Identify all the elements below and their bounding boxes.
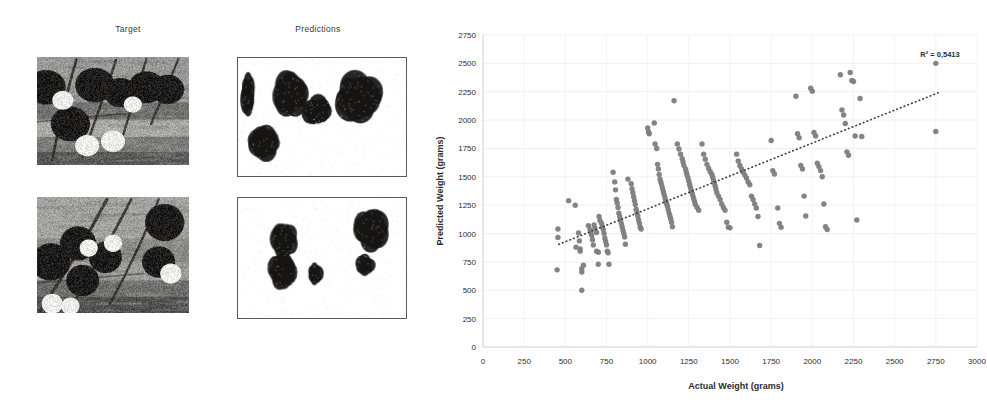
prediction-mask-row-2 [237,197,407,319]
x-tick-label: 1500 [721,357,739,366]
data-point [606,261,611,266]
x-tick-label: 2250 [845,357,863,366]
data-point [652,120,657,125]
data-point [696,208,701,213]
data-point [757,243,762,248]
data-point [838,72,843,77]
data-point [579,269,584,274]
data-point [801,193,806,198]
data-point [818,168,823,173]
x-tick-label: 1250 [680,357,698,366]
r-squared-annotation: R² = 0,5413 [920,50,959,59]
scatter-plot-svg: 0250500750100012501500175020002250250027… [425,0,987,404]
data-point [573,202,578,207]
data-point [755,214,760,219]
scatter-chart-panel: 0250500750100012501500175020002250250027… [425,0,987,404]
data-point [821,201,826,206]
data-point [656,166,661,171]
data-point [699,141,704,146]
column-header-target: Target [78,24,178,34]
data-point [701,151,706,156]
data-point [604,242,609,247]
y-tick-label: 1500 [458,173,476,182]
data-point [676,146,681,151]
data-point [613,187,618,192]
data-point [612,179,617,184]
data-point [933,129,938,134]
prediction-mask-row-1 [237,57,407,177]
data-point [854,217,859,222]
data-point [734,151,739,156]
data-point [824,227,829,232]
data-point [633,202,638,207]
y-tick-label: 1250 [458,201,476,210]
data-point [820,174,825,179]
data-point [810,88,815,93]
data-point [669,220,674,225]
data-point [594,230,599,235]
data-point [623,242,628,247]
y-tick-label: 1750 [458,144,476,153]
y-tick-label: 2750 [458,31,476,40]
data-point [722,208,727,213]
data-point [590,237,595,242]
x-tick-label: 0 [481,357,486,366]
data-point [577,248,582,253]
data-point [813,133,818,138]
data-point [655,162,660,167]
data-point [768,138,773,143]
x-tick-label: 2500 [886,357,904,366]
data-point [754,205,759,210]
data-point [629,181,634,186]
data-point [596,250,601,255]
x-axis-title: Actual Weight (grams) [688,381,783,391]
data-point [647,131,652,136]
data-point [670,224,675,229]
y-axis-title: Predicted Weight (grams) [435,137,445,246]
data-point [555,226,560,231]
data-point [848,70,853,75]
data-point [591,242,596,247]
y-tick-label: 500 [463,286,477,295]
data-point [841,112,846,117]
y-tick-label: 2000 [458,116,476,125]
x-tick-label: 1000 [639,357,657,366]
data-point [747,182,752,187]
y-tick-label: 750 [463,258,477,267]
data-point [793,94,798,99]
x-tick-label: 1750 [762,357,780,366]
data-point [727,225,732,230]
data-point [724,220,729,225]
data-point [566,198,571,203]
y-tick-label: 2500 [458,59,476,68]
data-point [577,238,582,243]
data-point [772,171,777,176]
data-point [576,230,581,235]
data-point [800,166,805,171]
data-point [852,133,857,138]
data-point [851,79,856,84]
trendline [559,92,941,245]
y-tick-label: 250 [463,315,477,324]
data-point [846,153,851,158]
gridlines [483,35,977,347]
data-point [857,96,862,101]
x-tick-label: 750 [600,357,614,366]
data-point [589,233,594,238]
data-point [605,250,610,255]
data-point [596,261,601,266]
x-tick-label: 2000 [803,357,821,366]
data-point [615,205,620,210]
target-image-row-2 [37,197,189,313]
data-point [803,213,808,218]
data-point [579,288,584,293]
data-point [638,226,643,231]
data-point [581,263,586,268]
y-tick-label: 1000 [458,230,476,239]
data-point [859,134,864,139]
data-point [610,170,615,175]
column-header-predictions: Predictions [268,24,368,34]
data-point [796,135,801,140]
x-tick-label: 3000 [968,357,986,366]
y-tick-label: 0 [472,343,477,352]
